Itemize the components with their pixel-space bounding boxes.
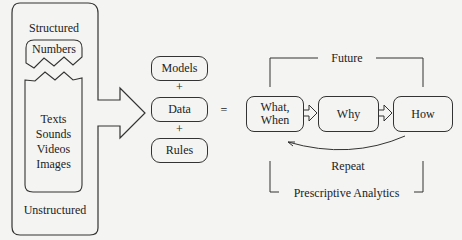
rules-box: Rules <box>151 138 208 163</box>
arrow-why-to-how <box>378 105 392 121</box>
sounds-label: Sounds <box>25 127 82 141</box>
future-bracket-right <box>376 58 423 87</box>
how-box: How <box>393 96 453 132</box>
arrow-what-to-why <box>302 105 317 121</box>
videos-label: Videos <box>25 142 82 156</box>
structured-label: Structured <box>26 21 82 35</box>
images-label: Images <box>25 157 82 171</box>
when-label: When <box>261 114 290 127</box>
numbers-label: Numbers <box>26 42 82 56</box>
repeat-arrow <box>288 136 405 150</box>
unstructured-label: Unstructured <box>12 203 98 217</box>
data-box: Data <box>151 97 208 122</box>
future-bracket-left <box>270 58 318 87</box>
prescriptive-analytics-label: Prescriptive Analytics <box>280 186 413 200</box>
why-box: Why <box>318 96 379 132</box>
what-when-box: What, When <box>246 96 304 132</box>
texts-label: Texts <box>25 112 82 126</box>
future-label: Future <box>318 51 376 65</box>
models-box: Models <box>151 56 208 81</box>
plus-sign-2: + <box>151 122 208 136</box>
prescriptive-bracket-left <box>270 161 279 192</box>
equals-sign: = <box>218 103 230 117</box>
repeat-label: Repeat <box>318 159 378 173</box>
plus-sign-1: + <box>151 80 208 94</box>
prescriptive-bracket-right <box>414 161 423 192</box>
